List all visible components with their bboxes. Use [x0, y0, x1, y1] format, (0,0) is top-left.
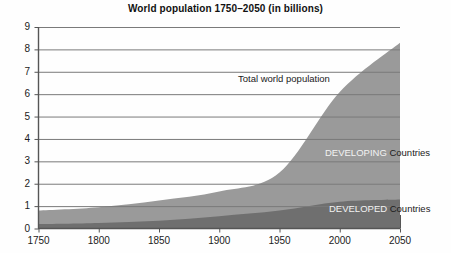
population-area-chart: World population 1750–2050 (in billions)… [0, 0, 451, 253]
x-tick-label: 2050 [380, 235, 420, 246]
y-tick-label: 1 [12, 201, 30, 211]
x-tick-label: 1950 [260, 235, 300, 246]
y-tick-label: 0 [12, 224, 30, 234]
y-tick-label: 7 [12, 67, 30, 77]
developing-series-name: DEVELOPING [325, 147, 387, 158]
y-tick-label: 2 [12, 179, 30, 189]
area-series-group [39, 43, 401, 229]
x-tick-label: 1800 [79, 235, 119, 246]
y-tick-label: 4 [12, 134, 30, 144]
y-tick-label: 9 [12, 22, 30, 32]
x-tick-label: 1900 [199, 235, 239, 246]
y-tick-label: 8 [12, 44, 30, 54]
developed-series-name: DEVELOPED [329, 203, 387, 214]
x-tick-label: 2000 [320, 235, 360, 246]
plot-canvas [0, 0, 451, 253]
y-tick-label: 3 [12, 156, 30, 166]
annotation-developed-countries: DEVELOPED Countries [329, 203, 430, 214]
developed-series-suffix: Countries [390, 203, 431, 214]
x-tick-label: 1750 [19, 235, 59, 246]
y-tick-label: 5 [12, 112, 30, 122]
y-tick-label: 6 [12, 89, 30, 99]
annotation-developing-countries: DEVELOPING Countries [325, 147, 430, 158]
annotation-total-world-population: Total world population [238, 73, 330, 84]
x-tick-label: 1850 [139, 235, 179, 246]
area-developing [39, 43, 401, 229]
developing-series-suffix: Countries [389, 147, 430, 158]
